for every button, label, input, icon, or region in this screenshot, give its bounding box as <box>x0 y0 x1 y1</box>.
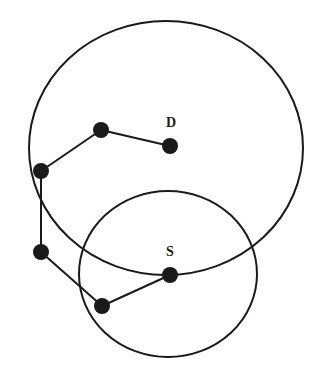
diagram-svg: DS <box>0 0 316 368</box>
node-labels: DS <box>166 115 176 259</box>
route-edge <box>41 130 101 171</box>
node-S <box>162 267 178 283</box>
route-edge <box>41 252 102 306</box>
route-edge <box>102 275 170 306</box>
node-D <box>162 138 178 154</box>
route-nodes <box>33 122 178 314</box>
node-label-S: S <box>166 244 174 259</box>
node-n1 <box>93 122 109 138</box>
range-circles <box>29 21 303 357</box>
route-edge <box>101 130 170 146</box>
route-edges <box>41 130 170 306</box>
node-n4 <box>94 298 110 314</box>
node-n3 <box>33 244 49 260</box>
routing-diagram: DS <box>0 0 316 368</box>
node-label-D: D <box>166 115 176 130</box>
node-n2 <box>33 163 49 179</box>
